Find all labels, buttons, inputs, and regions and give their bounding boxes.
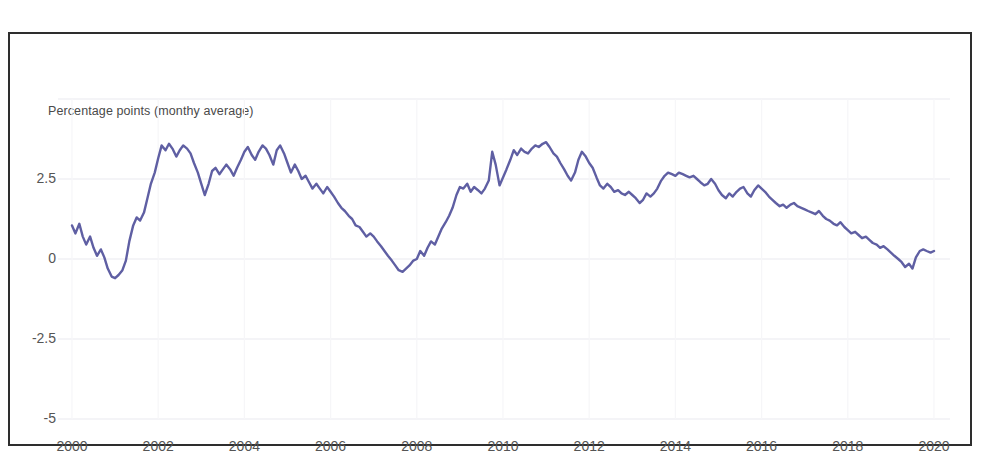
- x-tick-label: 2012: [559, 438, 619, 454]
- x-tick-label: 2010: [473, 438, 533, 454]
- y-tick-label: -2.5: [10, 330, 56, 346]
- x-tick-label: 2006: [301, 438, 361, 454]
- x-tick-label: 2008: [387, 438, 447, 454]
- x-tick-label: 2004: [214, 438, 274, 454]
- gridlines: [58, 99, 950, 419]
- y-tick-label: 2.5: [10, 170, 56, 186]
- x-tick-label: 2018: [818, 438, 878, 454]
- x-tick-label: 2016: [732, 438, 792, 454]
- x-tick-label: 2014: [645, 438, 705, 454]
- figure: Percentage points (monthy average) 2.50-…: [0, 0, 981, 470]
- x-tick-label: 2002: [128, 438, 188, 454]
- plot-area: [10, 34, 974, 448]
- x-tick-label: 2000: [42, 438, 102, 454]
- y-tick-label: -5: [10, 410, 56, 426]
- y-tick-label: 0: [10, 250, 56, 266]
- chart-frame: Percentage points (monthy average) 2.50-…: [8, 32, 972, 446]
- x-tick-label: 2020: [904, 438, 964, 454]
